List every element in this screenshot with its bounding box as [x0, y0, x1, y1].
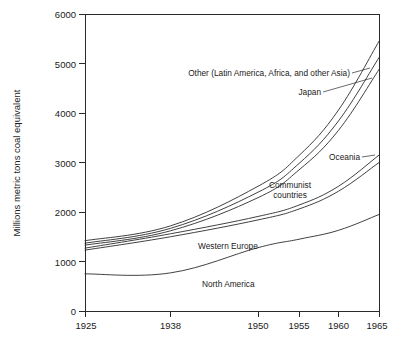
x-tick-label-1938: 1938 [160, 320, 181, 331]
y-axis-title: Millions metric tons coal equivalent [11, 89, 22, 236]
y-tick-label-3000: 3000 [55, 158, 76, 169]
x-tick-label-1925: 1925 [75, 320, 96, 331]
chart-canvas: 6000 5000 4000 3000 2000 1000 0 1925 193… [0, 0, 400, 342]
x-tick-labels: 1925 1938 1950 1955 1960 1965 [75, 320, 387, 331]
y-tick-marks [79, 14, 85, 311]
x-tick-marks [85, 311, 379, 317]
series-label-communist-countries-line1: Communist [269, 180, 312, 190]
y-tick-label-6000: 6000 [55, 9, 76, 20]
series-label-oceania: Oceania [329, 152, 360, 162]
x-tick-label-1955: 1955 [288, 320, 309, 331]
y-tick-label-1000: 1000 [55, 257, 76, 268]
axes-group [85, 14, 379, 311]
leader-line-other [352, 68, 370, 73]
leader-line-japan [323, 78, 372, 92]
y-tick-label-0: 0 [71, 306, 76, 317]
x-tick-label-1950: 1950 [247, 320, 268, 331]
series-label-other: Other (Latin America, Africa, and other … [188, 68, 350, 78]
series-line-oceania [85, 155, 379, 248]
series-label-communist-countries-line2: countries [273, 190, 307, 200]
leader-line-oceania [362, 155, 375, 157]
y-tick-labels: 6000 5000 4000 3000 2000 1000 0 [55, 9, 76, 317]
series-line-japan [85, 58, 379, 244]
series-label-north-america: North America [202, 279, 255, 289]
series-annotations: Other (Latin America, Africa, and other … [188, 68, 360, 289]
annotation-leaders [323, 68, 375, 157]
series-label-japan: Japan [298, 87, 321, 97]
x-tick-label-1965: 1965 [366, 320, 387, 331]
y-tick-label-4000: 4000 [55, 108, 76, 119]
y-tick-label-5000: 5000 [55, 59, 76, 70]
x-tick-label-1960: 1960 [328, 320, 349, 331]
chart-figure: 6000 5000 4000 3000 2000 1000 0 1925 193… [0, 0, 400, 342]
series-label-western-europe: Western Europe [198, 241, 258, 251]
y-tick-label-2000: 2000 [55, 207, 76, 218]
